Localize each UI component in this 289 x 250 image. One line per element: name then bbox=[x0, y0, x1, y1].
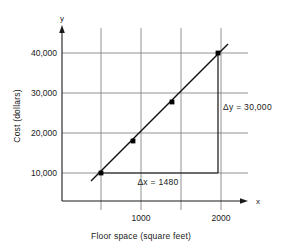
x-tick-label-2000: 2000 bbox=[212, 213, 231, 223]
y-tick-label-10000: 10,000 bbox=[31, 168, 57, 178]
x-axis-arrowhead bbox=[240, 198, 248, 204]
y-tick-label-30000: 30,000 bbox=[31, 88, 57, 98]
x-axis-symbol: x bbox=[256, 197, 260, 206]
horizontal-gridlines bbox=[62, 53, 248, 173]
y-axis-arrowhead bbox=[59, 25, 65, 33]
chart-figure: y x 40,000 30,000 20,000 10,000 1000 200… bbox=[0, 0, 289, 250]
delta-x-annotation: Δx = 1480 bbox=[137, 177, 178, 187]
data-point-marker bbox=[99, 171, 104, 176]
data-point-marker bbox=[170, 100, 175, 105]
y-axis-symbol: y bbox=[60, 14, 64, 23]
cost-vs-floorspace-chart: y x 40,000 30,000 20,000 10,000 1000 200… bbox=[0, 0, 289, 250]
x-axis-title: Floor space (square feet) bbox=[91, 231, 191, 241]
y-axis-title: Cost (dollars) bbox=[12, 89, 22, 142]
cost-trend-line bbox=[91, 44, 228, 181]
y-axis bbox=[59, 25, 65, 201]
data-point-marker bbox=[131, 139, 136, 144]
data-point-marker bbox=[216, 51, 221, 56]
x-axis bbox=[62, 198, 248, 204]
y-tick-label-40000: 40,000 bbox=[31, 48, 57, 58]
delta-y-annotation: Δy = 30,000 bbox=[223, 102, 272, 112]
y-tick-label-20000: 20,000 bbox=[31, 128, 57, 138]
x-tick-label-1000: 1000 bbox=[132, 213, 151, 223]
